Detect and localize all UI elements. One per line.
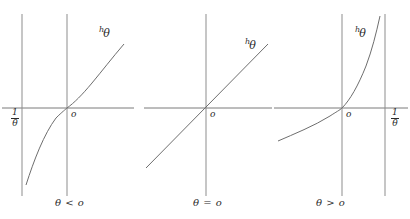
origin-label: o — [71, 110, 76, 119]
curve-label-theta: θ — [359, 27, 366, 40]
panel-3-plot — [274, 0, 410, 219]
curve-label-h-theta: hθ — [99, 26, 111, 37]
origin-label: o — [346, 110, 351, 119]
curve-h-theta — [146, 44, 268, 168]
fraction-denominator: θ — [391, 119, 399, 128]
curve-label-theta: θ — [103, 27, 110, 40]
panel-theta-zero: hθ o θ = o — [140, 0, 276, 219]
asymptote-label-one-over-theta: 1 θ — [11, 108, 19, 129]
panel-1-plot — [0, 0, 136, 219]
curve-label-h-theta: hθ — [245, 38, 257, 49]
panel-2-plot — [140, 0, 276, 219]
curve-label-h-theta: hθ — [355, 26, 367, 37]
figure-canvas: hθ o 1 θ θ < o hθ o θ = o — [0, 0, 410, 219]
condition-label: θ = o — [193, 198, 222, 208]
origin-label: o — [210, 110, 215, 119]
fraction-numerator: 1 — [391, 108, 399, 117]
fraction-numerator: 1 — [11, 108, 19, 117]
panel-theta-positive: hθ o 1 θ θ > o — [274, 0, 410, 219]
panel-theta-negative: hθ o 1 θ θ < o — [0, 0, 136, 219]
condition-label: θ > o — [316, 198, 345, 208]
curve-label-theta: θ — [249, 39, 256, 52]
condition-label: θ < o — [55, 198, 84, 208]
fraction-denominator: θ — [11, 119, 19, 128]
asymptote-label-one-over-theta: 1 θ — [391, 108, 399, 129]
